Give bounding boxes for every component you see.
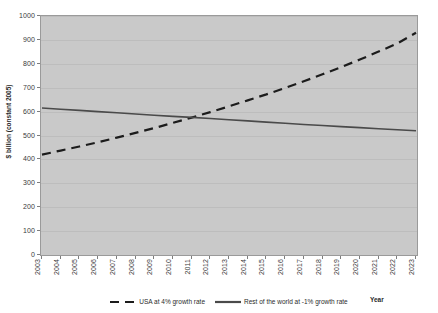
x-tick-label: 2003 <box>34 259 41 275</box>
x-tick-label: 2008 <box>127 259 134 275</box>
y-tick-label: 200 <box>23 203 35 210</box>
x-tick-label: 2007 <box>108 259 115 275</box>
y-tick-label: 1000 <box>19 12 35 19</box>
x-tick-label: 2009 <box>146 259 153 275</box>
legend-swatch-solid-icon <box>215 299 241 305</box>
x-tick-label: 2018 <box>314 259 321 275</box>
x-tick-label: 2014 <box>239 259 246 275</box>
x-tick-label: 2005 <box>71 259 78 275</box>
x-tick-mark <box>153 256 154 259</box>
x-tick-label: 2004 <box>52 259 59 275</box>
legend-item-usa: USA at 4% growth rate <box>110 298 205 305</box>
x-tick-label: 2021 <box>370 259 377 275</box>
y-tick-label: 600 <box>23 107 35 114</box>
x-tick-mark <box>135 256 136 259</box>
x-tick-mark <box>116 256 117 259</box>
series-layer <box>41 16 417 255</box>
y-tick-label: 500 <box>23 131 35 138</box>
x-tick-mark <box>265 256 266 259</box>
legend: USA at 4% growth rate Rest of the world … <box>40 298 418 305</box>
x-tick-mark <box>97 256 98 259</box>
series-line-rest-of-world <box>42 108 416 131</box>
x-tick-label: 2012 <box>202 259 209 275</box>
x-tick-mark <box>191 256 192 259</box>
x-tick-label: 2006 <box>90 259 97 275</box>
x-tick-label: 2011 <box>183 259 190 274</box>
x-tick-label: 2019 <box>333 259 340 275</box>
y-tick-label: 700 <box>23 83 35 90</box>
x-tick-label: 2015 <box>258 259 265 275</box>
x-tick-label: 2016 <box>277 259 284 275</box>
x-tick-mark <box>228 256 229 259</box>
x-tick-mark <box>60 256 61 259</box>
y-tick-label: 300 <box>23 179 35 186</box>
legend-item-rest-of-world: Rest of the world at -1% growth rate <box>215 298 348 305</box>
x-tick-label: 2022 <box>389 259 396 275</box>
x-tick-label: 2020 <box>351 259 358 275</box>
y-axis: $ billion (constant 2005) 01002003004005… <box>0 0 40 271</box>
plot-area <box>40 15 418 256</box>
x-tick-mark <box>172 256 173 259</box>
x-tick-mark <box>322 256 323 259</box>
x-tick-mark <box>396 256 397 259</box>
legend-swatch-dashed-icon <box>110 299 136 305</box>
x-tick-mark <box>359 256 360 259</box>
x-tick-label: 2013 <box>221 259 228 275</box>
x-tick-mark <box>303 256 304 259</box>
x-tick-label: 2017 <box>295 259 302 275</box>
x-tick-label: 2010 <box>164 259 171 275</box>
x-axis: 2003200420052006200720082009201020112012… <box>40 256 418 296</box>
x-tick-mark <box>340 256 341 259</box>
x-tick-mark <box>415 256 416 259</box>
y-tick-label: 0 <box>31 251 35 258</box>
y-tick-label: 800 <box>23 59 35 66</box>
y-tick-label: 900 <box>23 35 35 42</box>
series-line-usa <box>42 33 416 155</box>
legend-label-rest-of-world: Rest of the world at -1% growth rate <box>244 298 348 305</box>
x-tick-mark <box>78 256 79 259</box>
x-tick-mark <box>247 256 248 259</box>
x-tick-mark <box>41 256 42 259</box>
x-tick-mark <box>284 256 285 259</box>
x-tick-label: 2023 <box>408 259 415 275</box>
x-tick-mark <box>378 256 379 259</box>
y-tick-label: 400 <box>23 155 35 162</box>
legend-label-usa: USA at 4% growth rate <box>139 298 205 305</box>
y-axis-title: $ billion (constant 2005) <box>5 52 12 192</box>
line-chart: $ billion (constant 2005) 01002003004005… <box>0 0 438 313</box>
x-tick-mark <box>209 256 210 259</box>
y-tick-label: 100 <box>23 227 35 234</box>
